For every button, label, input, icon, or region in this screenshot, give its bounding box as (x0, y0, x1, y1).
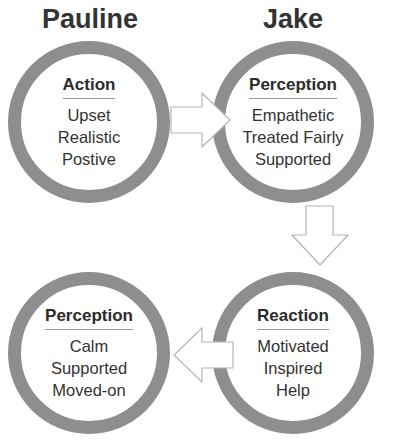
person-label-pauline: Pauline (10, 4, 170, 35)
node-jake-reaction: Reaction Motivated Inspired Help (212, 272, 374, 434)
node-pauline-perception: Perception Calm Supported Moved-on (8, 272, 170, 434)
node-item: Empathetic (252, 104, 335, 126)
node-item: Supported (51, 357, 127, 379)
arrow-down-icon (290, 205, 350, 267)
person-label-jake: Jake (213, 4, 373, 35)
node-item: Treated Fairly (242, 126, 343, 148)
node-title: Action (63, 75, 116, 99)
node-title: Perception (45, 306, 133, 330)
node-item: Realistic (58, 126, 120, 148)
node-item: Calm (70, 335, 109, 357)
node-jake-perception: Perception Empathetic Treated Fairly Sup… (212, 41, 374, 203)
arrow-left-icon (173, 327, 235, 383)
node-item: Moved-on (52, 379, 125, 401)
node-title: Perception (249, 75, 337, 99)
node-item: Motivated (257, 335, 329, 357)
arrow-right-icon (170, 92, 232, 148)
node-item: Supported (255, 148, 331, 170)
node-title: Reaction (257, 306, 329, 330)
node-item: Upset (67, 104, 110, 126)
node-item: Postive (62, 148, 116, 170)
node-item: Inspired (264, 357, 323, 379)
node-item: Help (276, 379, 310, 401)
node-pauline-action: Action Upset Realistic Postive (8, 41, 170, 203)
